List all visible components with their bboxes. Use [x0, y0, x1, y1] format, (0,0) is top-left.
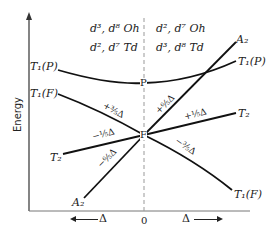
x-right-arrowhead-icon	[217, 216, 223, 222]
x-right-arrow	[194, 219, 218, 220]
free-ion-f-label: F	[140, 130, 147, 140]
header-right-line2: d³, d⁸ Td	[156, 42, 204, 53]
right-t1f-label: T₁(F)	[234, 189, 262, 200]
left-t1p-label: T₁(P)	[30, 61, 58, 72]
right-t1p-label: T₁(P)	[238, 56, 266, 67]
header-left-line2: d², d⁷ Td	[90, 42, 138, 53]
header-left-line1: d³, d⁸ Oh	[90, 23, 140, 34]
axes	[26, 12, 250, 211]
left-t2-label: T₂	[50, 152, 62, 163]
energy-curves	[58, 42, 236, 198]
orgel-diagram	[0, 0, 276, 242]
x-right-delta-label: Δ	[182, 213, 190, 224]
curve-t1p	[58, 61, 236, 83]
left-t1f-label: T₁(F)	[30, 88, 58, 99]
line-left-a2	[84, 135, 144, 198]
right-a2-label: A₂	[236, 34, 248, 45]
header-right-line1: d², d⁷ Oh	[156, 23, 206, 34]
x-left-arrowhead-icon	[70, 216, 76, 222]
y-axis-arrow-icon	[26, 12, 32, 20]
right-t2-label: T₂	[238, 108, 250, 119]
x-origin-label: 0	[141, 216, 147, 226]
free-ion-p-label: P	[140, 78, 147, 88]
x-left-delta-label: Δ	[99, 213, 107, 224]
left-a2-label: A₂	[72, 197, 84, 208]
y-axis-title: Energy	[12, 97, 23, 132]
line-right-a2	[144, 42, 236, 135]
